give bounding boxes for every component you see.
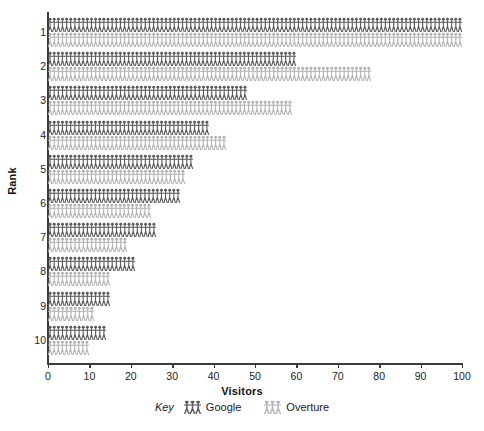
picto-row-rank-7-overture (48, 237, 127, 252)
x-tick-label-10: 10 (69, 370, 109, 382)
person-figure-icon (184, 400, 201, 414)
picto-row-rank-8-overture (48, 271, 110, 286)
y-tick-label-9: 9 (16, 300, 46, 312)
x-tick-60 (296, 363, 297, 368)
x-tick-50 (255, 363, 256, 368)
y-tick-label-8: 8 (16, 265, 46, 277)
picto-row-rank-8-google (48, 256, 135, 271)
picto-row-rank-10-overture (48, 340, 89, 355)
picto-row-rank-4-google (48, 120, 209, 135)
y-tick-label-3: 3 (16, 94, 46, 106)
x-axis-ticks: 0102030405060708090100 (0, 363, 484, 385)
chart-legend: Key GoogleOverture (0, 400, 484, 414)
x-tick-100 (462, 363, 463, 368)
x-tick-40 (214, 363, 215, 368)
x-tick-10 (89, 363, 90, 368)
picto-row-rank-9-overture (48, 306, 94, 321)
legend-entry-overture: Overture (264, 400, 329, 414)
x-tick-30 (172, 363, 173, 368)
picto-row-rank-6-google (48, 188, 180, 203)
x-tick-label-40: 40 (194, 370, 234, 382)
x-tick-label-100: 100 (442, 370, 482, 382)
y-tick-label-5: 5 (16, 163, 46, 175)
y-axis-title: Rank (6, 151, 18, 211)
picto-row-rank-7-google (48, 222, 156, 237)
picto-row-rank-1-overture (48, 32, 462, 47)
picto-row-rank-4-overture (48, 135, 226, 150)
x-tick-90 (421, 363, 422, 368)
x-tick-label-80: 80 (359, 370, 399, 382)
y-tick-label-2: 2 (16, 60, 46, 72)
person-figure-icon (264, 400, 281, 414)
x-tick-20 (131, 363, 132, 368)
picto-row-rank-5-overture (48, 169, 185, 184)
picto-row-rank-5-google (48, 154, 193, 169)
legend-key-word: Key (155, 401, 174, 413)
x-tick-0 (48, 363, 49, 368)
y-tick-label-7: 7 (16, 231, 46, 243)
picto-row-rank-2-overture (48, 66, 371, 81)
x-tick-label-30: 30 (152, 370, 192, 382)
x-tick-70 (338, 363, 339, 368)
y-tick-label-10: 10 (16, 334, 46, 346)
picto-row-rank-2-google (48, 51, 296, 66)
picto-row-rank-9-google (48, 291, 110, 306)
picto-row-rank-6-overture (48, 203, 152, 218)
x-tick-label-70: 70 (318, 370, 358, 382)
picto-row-rank-10-google (48, 325, 106, 340)
x-tick-label-0: 0 (28, 370, 68, 382)
legend-label-google: Google (206, 401, 241, 413)
pictogram-chart: 12345678910 Rank 0102030405060708090100 … (0, 0, 484, 431)
y-tick-label-1: 1 (16, 26, 46, 38)
picto-row-rank-1-google (48, 17, 462, 32)
legend-entry-google: Google (184, 400, 241, 414)
x-tick-label-50: 50 (235, 370, 275, 382)
y-tick-label-4: 4 (16, 129, 46, 141)
legend-label-overture: Overture (286, 401, 329, 413)
x-axis-title: Visitors (0, 385, 484, 397)
x-tick-label-20: 20 (111, 370, 151, 382)
x-tick-label-90: 90 (401, 370, 441, 382)
x-tick-label-60: 60 (276, 370, 316, 382)
picto-row-rank-3-google (48, 85, 247, 100)
picto-row-rank-3-overture (48, 100, 292, 115)
y-tick-label-6: 6 (16, 197, 46, 209)
x-tick-80 (379, 363, 380, 368)
